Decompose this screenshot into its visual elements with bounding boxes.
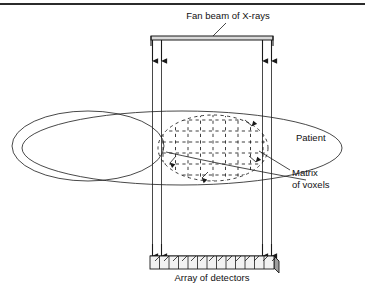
beam-boundary-group (153, 40, 272, 257)
beam-arrow-group (153, 40, 272, 61)
fan-beam-leader-line (212, 23, 226, 37)
patient-label: Patient (296, 132, 326, 143)
voxel-grid-vertical-lines (163, 114, 263, 182)
ct-scanner-diagram: Fan beam of X-rays (0, 0, 365, 294)
voxel-matrix-grid (156, 114, 270, 182)
voxel-arrow-2 (249, 156, 256, 162)
patient-leader-line (166, 152, 306, 180)
detector-incoming-arrows (153, 244, 272, 256)
voxel-arrow-1 (245, 120, 252, 126)
array-of-detectors-label: Array of detectors (175, 272, 250, 283)
matrix-of-voxels-label-line1: Matrix (292, 167, 318, 178)
top-rule (0, 3, 365, 5)
patient-head-ellipse (12, 111, 164, 181)
fan-beam-label: Fan beam of X-rays (186, 10, 270, 21)
diagram-canvas: Fan beam of X-rays (0, 0, 365, 294)
matrix-of-voxels-label-line2: of voxels (292, 179, 330, 190)
detector-array (150, 256, 279, 273)
xray-source-bar (151, 36, 273, 40)
